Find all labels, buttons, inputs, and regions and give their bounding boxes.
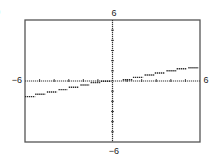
x-max-label: 6 [203,75,208,85]
step-segments [25,68,199,97]
y-max-label: 6 [111,8,116,18]
axes [25,20,200,142]
x-min-label: −6 [12,75,22,85]
y-min-label: −6 [109,146,119,156]
step-function-chart: 6 −6 −6 6 [0,0,214,163]
